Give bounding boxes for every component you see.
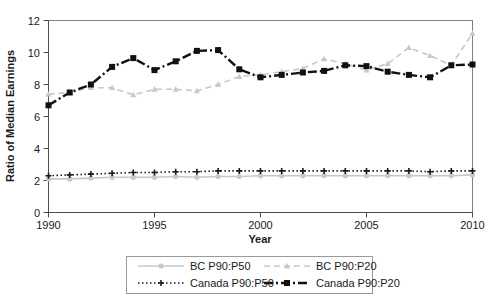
data-point bbox=[279, 168, 285, 174]
data-point bbox=[470, 30, 476, 36]
y-axis-title: Ratio of Median Earnings bbox=[4, 50, 16, 182]
data-point bbox=[216, 174, 221, 179]
legend-sample-marker bbox=[284, 280, 290, 286]
data-point bbox=[88, 82, 94, 88]
data-point bbox=[109, 170, 115, 176]
data-point bbox=[152, 170, 158, 176]
y-tick-label: 0 bbox=[34, 207, 40, 219]
chart-figure: 024681012 19901995200020052010 Ratio of … bbox=[0, 0, 496, 302]
data-point bbox=[448, 168, 454, 174]
y-tick-label: 12 bbox=[28, 15, 40, 27]
data-point bbox=[67, 90, 73, 96]
data-point bbox=[67, 172, 73, 178]
data-point bbox=[406, 72, 412, 78]
data-point bbox=[448, 62, 454, 68]
data-point bbox=[130, 170, 136, 176]
data-point bbox=[321, 68, 327, 74]
data-point bbox=[88, 171, 94, 177]
x-tick-label: 1995 bbox=[142, 219, 166, 231]
y-axis-ticks: 024681012 bbox=[28, 15, 49, 219]
legend-label-canada-p90-p50: Canada P90:P50 bbox=[190, 277, 274, 289]
data-point bbox=[385, 69, 391, 75]
data-point bbox=[215, 47, 221, 53]
data-point bbox=[258, 74, 264, 80]
series-layer bbox=[46, 30, 476, 181]
x-axis-ticks: 19901995200020052010 bbox=[36, 213, 484, 232]
data-point bbox=[364, 168, 370, 174]
data-point bbox=[364, 63, 370, 69]
data-point bbox=[173, 58, 179, 64]
data-point bbox=[237, 174, 242, 179]
y-tick-label: 6 bbox=[34, 111, 40, 123]
x-tick-label: 2010 bbox=[460, 219, 484, 231]
data-point bbox=[279, 72, 285, 78]
data-point bbox=[194, 175, 199, 180]
data-point bbox=[194, 48, 200, 54]
data-point bbox=[236, 66, 242, 72]
data-point bbox=[236, 73, 242, 79]
chart-legend: BC P90:P50 BC P90:P20 Canada P90:P50 Can… bbox=[127, 257, 400, 294]
data-point bbox=[215, 168, 221, 174]
data-point bbox=[173, 169, 179, 175]
x-tick-label: 1990 bbox=[36, 219, 60, 231]
y-tick-label: 2 bbox=[34, 175, 40, 187]
x-tick-label: 2005 bbox=[354, 219, 378, 231]
data-point bbox=[130, 55, 136, 61]
ratio-of-median-earnings-line-chart: 024681012 19901995200020052010 Ratio of … bbox=[0, 0, 496, 302]
x-axis-title: Year bbox=[248, 233, 272, 245]
legend-label-canada-p90-p20: Canada P90:P20 bbox=[316, 277, 400, 289]
data-point bbox=[342, 168, 348, 174]
legend-sample-marker bbox=[158, 263, 163, 268]
data-point bbox=[109, 64, 115, 70]
data-point bbox=[152, 67, 158, 73]
data-point bbox=[406, 168, 412, 174]
data-point bbox=[385, 168, 391, 174]
data-point bbox=[300, 168, 306, 174]
data-point bbox=[470, 62, 476, 68]
y-tick-label: 10 bbox=[28, 47, 40, 59]
series-bc-p90-p20 bbox=[46, 30, 476, 97]
series-canada-p90-p20 bbox=[46, 47, 476, 108]
data-point bbox=[321, 56, 327, 62]
legend-label-bc-p90-p20: BC P90:P20 bbox=[316, 260, 377, 272]
data-point bbox=[470, 168, 476, 174]
data-point bbox=[46, 102, 52, 108]
legend-label-bc-p90-p50: BC P90:P50 bbox=[190, 260, 251, 272]
y-tick-label: 8 bbox=[34, 79, 40, 91]
data-point bbox=[236, 168, 242, 174]
x-tick-label: 2000 bbox=[248, 219, 272, 231]
data-point bbox=[427, 53, 433, 59]
y-tick-label: 4 bbox=[34, 143, 40, 155]
data-point bbox=[427, 169, 433, 175]
data-point bbox=[300, 70, 306, 76]
data-point bbox=[427, 74, 433, 80]
data-point bbox=[321, 168, 327, 174]
data-point bbox=[258, 168, 264, 174]
data-point bbox=[406, 45, 412, 51]
data-point bbox=[342, 62, 348, 68]
data-point bbox=[194, 169, 200, 175]
